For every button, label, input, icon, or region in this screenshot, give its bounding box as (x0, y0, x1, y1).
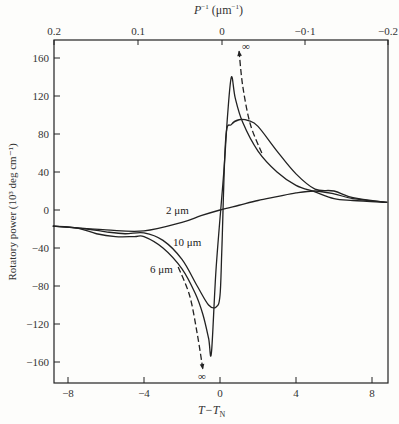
x-tick-label: 8 (369, 387, 375, 399)
curves (53, 50, 387, 369)
top-x-tick-label: 0 (219, 25, 225, 37)
top-x-tick-label: 0.1 (131, 25, 145, 37)
y-tick-label: 0 (44, 204, 50, 216)
top-x-axis-title: P−1(μm−1) (193, 3, 243, 17)
y-axis-ticks: 16012080400−40−80−120−160 (26, 52, 60, 368)
infinity-top-label: ∞ (242, 40, 250, 52)
x-tick-label: −8 (62, 387, 74, 399)
series-label-10um: 10 μm (173, 236, 202, 248)
x-tick-label: −4 (138, 387, 150, 399)
y-tick-label: −160 (26, 356, 49, 368)
infinity-bottom-label: ∞ (198, 370, 206, 382)
y-tick-label: −40 (32, 242, 50, 254)
y-tick-label: 120 (33, 90, 50, 102)
top-x-tick-label: −0.2 (378, 25, 398, 37)
x-axis-ticks: −8−4048 (62, 377, 375, 399)
x-tick-label: 4 (293, 387, 299, 399)
y-tick-label: −80 (32, 280, 50, 292)
curve-6um (53, 77, 387, 357)
x-axis-title: T−TN (198, 403, 225, 419)
series-label-2um: 2 μm (166, 204, 189, 216)
top-x-axis-ticks: 0.20.10−0·1−0.2 (47, 25, 398, 45)
top-x-tick-label: −0·1 (295, 25, 316, 37)
arrowhead-icon (200, 364, 205, 370)
x-tick-label: 0 (217, 387, 223, 399)
rotatory-power-chart: 16012080400−40−80−120−160 −8−4048 0.20.1… (0, 0, 399, 424)
y-tick-label: −120 (26, 318, 49, 330)
y-axis-title: Rotatory power (10³ deg cm⁻¹) (6, 143, 19, 281)
y-tick-label: 80 (38, 128, 50, 140)
series-label-6um: 6 μm (150, 263, 173, 275)
y-tick-label: 160 (33, 52, 50, 64)
top-x-tick-label: 0.2 (47, 25, 61, 37)
y-tick-label: 40 (38, 166, 50, 178)
